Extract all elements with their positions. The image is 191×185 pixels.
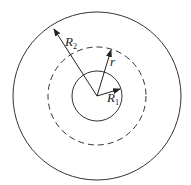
radius-R2-arrow [54,29,97,96]
label-r: r [110,54,116,69]
concentric-circles-diagram: R2 r R1 [0,0,191,185]
label-R1: R1 [106,90,119,107]
label-R2: R2 [64,34,77,51]
